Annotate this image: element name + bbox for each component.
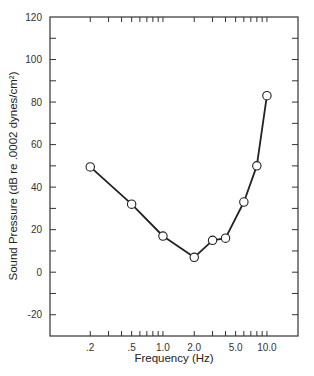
frequency-response-chart: .2.51.02.05.010.0120100806040200-20 Freq… [0,0,314,376]
data-point-marker [263,91,271,99]
data-series [86,91,271,261]
y-tick-label: 40 [31,182,43,193]
data-point-marker [208,236,216,244]
data-point-marker [127,200,135,208]
y-tick-label: 20 [31,224,43,235]
x-axis-title: Frequency (Hz) [134,352,213,364]
data-point-marker [159,232,167,240]
y-tick-label: -20 [28,309,43,320]
y-tick-label: 0 [36,267,42,278]
data-point-marker [240,198,248,206]
axis-ticks [50,17,298,336]
data-point-marker [221,234,229,242]
y-tick-label: 100 [25,54,42,65]
data-point-marker [253,162,261,170]
y-tick-label: 80 [31,97,43,108]
x-tick-label: .2 [86,342,95,353]
plot-border [50,17,298,336]
tick-labels: .2.51.02.05.010.0120100806040200-20 [25,12,277,354]
data-point-marker [86,163,94,171]
data-point-marker [190,253,198,261]
plot-frame [50,17,298,336]
y-axis-title: Sound Pressure (dB re .0002 dynes/cm²) [7,71,19,280]
x-tick-label: 5.0 [229,342,243,353]
x-tick-label: 10.0 [257,342,277,353]
y-tick-label: 60 [31,139,43,150]
series-line [90,96,267,258]
y-tick-label: 120 [25,12,42,23]
